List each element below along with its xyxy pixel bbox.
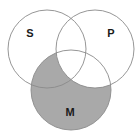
- label-m: M: [65, 106, 74, 118]
- label-s: S: [26, 27, 33, 39]
- venn-diagram: S P M: [0, 0, 139, 138]
- label-p: P: [107, 27, 114, 39]
